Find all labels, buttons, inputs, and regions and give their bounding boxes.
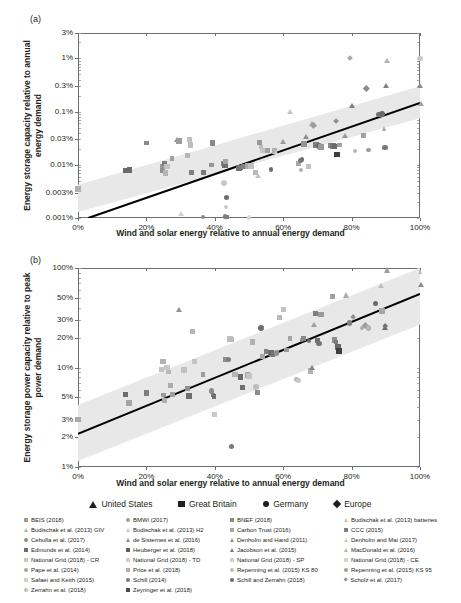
reference-legend-item[interactable]: Budischak et al. (2013) GIV (24, 525, 126, 535)
reference-legend-item[interactable]: CCC (2015) (344, 525, 461, 535)
reference-legend-label: Heuberger et al. (2018) (133, 545, 195, 555)
data-point-triangle (378, 283, 384, 288)
data-point-triangle (311, 322, 317, 327)
series-legend-item-triangle[interactable]: United States (89, 499, 152, 509)
panel-a-x-axis-title: Wind and solar energy relative to annual… (0, 228, 461, 238)
data-point-square (75, 417, 81, 423)
reference-legend-label: Denholm and Hand (2011) (237, 535, 307, 545)
reference-legend-item[interactable]: MacDonald et al. (2016) (344, 545, 461, 555)
data-point-square (126, 400, 132, 406)
data-point-triangle (342, 133, 348, 138)
reference-legend-item[interactable]: Scholz et al. (2017) (344, 575, 461, 585)
reference-legend-item[interactable]: Zerrahn et al. (2018) (24, 585, 126, 595)
series-legend-label: Europe (344, 499, 371, 509)
data-point-square (306, 164, 311, 169)
data-point-circle (274, 350, 279, 355)
data-point-square (181, 367, 187, 373)
reference-legend-item[interactable]: Denholm and Mai (2017) (344, 535, 461, 545)
reference-legend-item[interactable]: BEIS (2018) (24, 515, 126, 525)
reference-legend-item[interactable]: Price et al. (2018) (126, 565, 230, 575)
reference-legend-label: Cebulla et al. (2017) (31, 535, 85, 545)
reference-legend-item[interactable]: National Grid (2018) - CR (24, 555, 126, 565)
square-marker-icon (24, 548, 28, 552)
triangle-marker-icon (344, 518, 348, 522)
data-point-triangle (418, 282, 424, 287)
series-legend-item-diamond[interactable]: Europe (334, 499, 371, 509)
diamond-marker-icon (333, 500, 341, 508)
reference-legend-item[interactable]: Carbon Trust (2016) (230, 525, 344, 535)
data-point-square (277, 315, 282, 320)
data-point-square (166, 370, 171, 375)
reference-legend-item[interactable]: Edmunds et al. (2014) (24, 545, 126, 555)
circle-marker-icon (344, 568, 348, 572)
reference-legend-item[interactable]: de Sisternes et al. (2016) (126, 535, 230, 545)
data-point-square (170, 392, 175, 397)
data-point-circle (316, 341, 321, 346)
data-point-circle (258, 325, 264, 331)
reference-legend-label: Repenning et al. (2015) KS 95 (351, 565, 432, 575)
data-point-square (209, 163, 214, 168)
reference-legend-item[interactable]: Pape et al. (2014) (24, 565, 126, 575)
square-marker-icon (230, 528, 234, 532)
data-point-square (337, 143, 342, 148)
data-point-triangle (418, 101, 424, 106)
reference-legend-item[interactable]: National Grid (2018) - CE (344, 555, 461, 565)
reference-legend-item[interactable]: Safaei and Keith (2015) (24, 575, 126, 585)
reference-legend-item[interactable]: National Grid (2018) - TD (126, 555, 230, 565)
data-point-triangle (384, 58, 390, 63)
data-point-square (144, 390, 150, 396)
data-point-triangle (280, 139, 286, 144)
triangle-marker-icon (126, 528, 130, 532)
reference-legend-item[interactable]: Schill (2014) (126, 575, 230, 585)
data-point-triangle (343, 292, 349, 298)
reference-legend-item[interactable]: Cebulla et al. (2017) (24, 535, 126, 545)
data-point-square (210, 140, 216, 146)
data-point-triangle (274, 150, 278, 154)
reference-legend-item[interactable]: Heuberger et al. (2018) (126, 545, 230, 555)
series-legend-item-square[interactable]: Great Britain (178, 499, 236, 509)
reference-legend-label: National Grid (2018) - TD (133, 555, 200, 565)
reference-legend-item[interactable]: BNEF (2018) (230, 515, 344, 525)
data-point-square (164, 164, 169, 169)
circle-marker-icon (24, 588, 28, 592)
reference-legend-item[interactable]: Schill and Zerrahn (2018) (230, 575, 344, 585)
reference-legend-item[interactable]: Budischak et al. (2013) batteries (344, 515, 461, 525)
data-point-triangle (349, 103, 355, 108)
reference-legend-label: Zerrahn et al. (2018) (31, 585, 86, 595)
series-legend-item-circle[interactable]: Germany (263, 499, 308, 509)
reference-legend-item[interactable]: Jacobson et al. (2015) (230, 545, 344, 555)
reference-legend-item[interactable]: Repenning et al. (2015) KS 95 (344, 565, 461, 575)
data-point-square (161, 393, 166, 398)
reference-legend-label: Denholm and Mai (2017) (351, 535, 417, 545)
triangle-marker-icon (24, 528, 28, 532)
reference-legend-item[interactable]: Repenning et al. (2015) KS 80 (230, 565, 344, 575)
reference-legend-item[interactable]: National Grid (2018) - SP (230, 555, 344, 565)
data-point-square (160, 359, 166, 365)
reference-legend-label: Schill (2014) (133, 575, 166, 585)
reference-legend-label: CCC (2015) (351, 525, 383, 535)
data-point-square (250, 339, 255, 344)
panel-a: (a) Energy storage capacity relative to … (0, 0, 461, 245)
triangle-marker-icon (230, 538, 234, 542)
reference-legend-label: Budischak et al. (2013) H2 (133, 525, 204, 535)
reference-legend-label: MacDonald et al. (2016) (351, 545, 415, 555)
data-point-square (163, 170, 168, 175)
data-point-square (185, 386, 190, 391)
circle-marker-icon (126, 518, 130, 522)
reference-legend-item[interactable]: Denholm and Hand (2011) (230, 535, 344, 545)
data-point-square (123, 392, 128, 397)
data-point-square (192, 359, 197, 364)
data-point-circle (373, 301, 378, 306)
series-legend: United StatesGreat BritainGermanyEurope (0, 497, 461, 511)
reference-legend-item[interactable]: Zeyringer et al. (2018) (126, 585, 230, 595)
reference-legend-item[interactable]: BMWi (2017) (126, 515, 230, 525)
data-point-square (75, 186, 80, 191)
reference-legend-item[interactable]: Budischak et al. (2013) H2 (126, 525, 230, 535)
data-point-square (224, 215, 228, 219)
triangle-marker-icon (230, 548, 234, 552)
reference-legend-label: Zeyringer et al. (2018) (133, 585, 192, 595)
square-marker-icon (24, 558, 28, 562)
data-point-square (190, 329, 195, 334)
circle-marker-icon (230, 578, 234, 582)
square-marker-icon (24, 578, 28, 582)
